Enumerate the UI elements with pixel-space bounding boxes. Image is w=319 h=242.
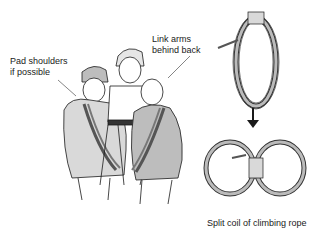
coiled-rope: [218, 12, 279, 109]
label-pad-shoulders: Pad shoulders if possible: [10, 56, 90, 78]
label-link-arms: Link arms behind back: [152, 34, 222, 56]
label-link-line2: behind back: [152, 45, 222, 56]
label-pad-line2: if possible: [10, 67, 90, 78]
label-link-line1: Link arms: [152, 34, 222, 45]
label-pad-line1: Pad shoulders: [10, 56, 90, 67]
split-coil: [206, 142, 304, 194]
leader-line-link: [168, 56, 190, 78]
down-arrow-icon: [247, 108, 259, 128]
caption-split-coil: Split coil of climbing rope: [207, 218, 317, 229]
leader-line-pad: [58, 80, 76, 96]
